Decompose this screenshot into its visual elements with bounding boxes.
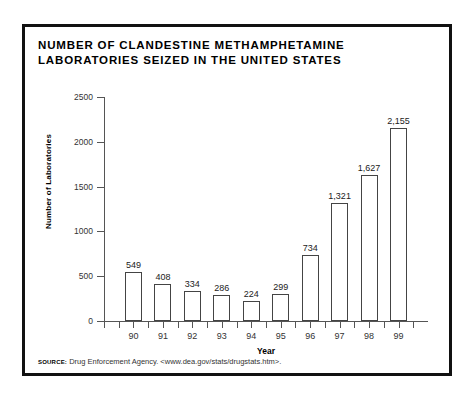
bar [361,175,378,321]
x-tick-mark [251,322,252,328]
x-tick-label: 98 [357,331,381,341]
x-tick-mark [310,322,311,328]
x-tick-label: 93 [210,331,234,341]
bar-value-label: 549 [113,260,153,270]
y-tick-label: 500 [45,272,93,281]
x-tick-label: 91 [151,331,175,341]
x-axis-label: Year [104,346,428,356]
x-tick-label: 95 [269,331,293,341]
bar-value-label: 1,321 [320,191,360,201]
x-tick-mark [354,322,355,328]
y-tick-mark [97,276,105,277]
x-tick-label: 99 [387,331,411,341]
x-tick-label: 94 [239,331,263,341]
x-tick-mark [266,322,267,328]
y-tick-mark [97,97,105,98]
y-tick-mark [97,231,105,232]
figure-frame: NUMBER OF CLANDESTINE METHAMPHETAMINE LA… [22,24,452,376]
y-tick-mark [97,142,105,143]
bar-value-label: 734 [290,243,330,253]
source-label: SOURCE: [38,359,67,365]
x-tick-mark [281,322,282,328]
y-tick-label-box: 1500 [45,183,93,192]
y-axis-line [104,97,105,322]
y-tick-label-box: 500 [45,272,93,281]
x-tick-mark [325,322,326,328]
x-tick-label: 90 [121,331,145,341]
x-tick-mark [119,322,120,328]
bar-value-label: 1,627 [349,163,389,173]
y-tick-label: 1500 [45,183,93,192]
x-tick-mark [340,322,341,328]
y-tick-mark [97,187,105,188]
y-tick-label: 0 [45,317,93,326]
x-tick-mark [178,322,179,328]
x-tick-mark [133,322,134,328]
bar [272,294,289,321]
y-tick-label-box: 0 [45,317,93,326]
plot-area: Number of Laboratories Year 050010001500… [25,27,449,373]
y-tick-label-box: 1000 [45,227,93,236]
x-tick-label: 96 [298,331,322,341]
x-tick-label: 97 [328,331,352,341]
x-tick-mark [148,322,149,328]
x-tick-mark [192,322,193,328]
bar-value-label: 299 [261,282,301,292]
bar [390,128,407,321]
x-tick-mark [295,322,296,328]
bar [184,291,201,321]
bar [302,255,319,321]
x-tick-mark [163,322,164,328]
y-tick-label: 1000 [45,227,93,236]
source-note: SOURCE: Drug Enforcement Agency. <www.de… [38,357,281,366]
y-tick-label: 2500 [45,93,93,102]
bar [213,295,230,321]
bar-value-label: 2,155 [379,116,419,126]
y-tick-label-box: 2500 [45,93,93,102]
x-tick-mark [237,322,238,328]
x-tick-mark [207,322,208,328]
x-tick-label: 92 [180,331,204,341]
bar [331,203,348,321]
bar [154,284,171,321]
x-tick-mark [399,322,400,328]
bar [243,301,260,321]
bar [125,272,142,321]
x-tick-mark [369,322,370,328]
y-axis-label: Number of Laboratories [44,134,53,230]
x-tick-mark [104,322,105,328]
source-text: Drug Enforcement Agency. <www.dea.gov/st… [69,357,281,366]
y-tick-label-box: 2000 [45,138,93,147]
x-tick-mark [222,322,223,328]
x-tick-mark [384,322,385,328]
x-tick-mark [413,322,414,328]
y-tick-label: 2000 [45,138,93,147]
